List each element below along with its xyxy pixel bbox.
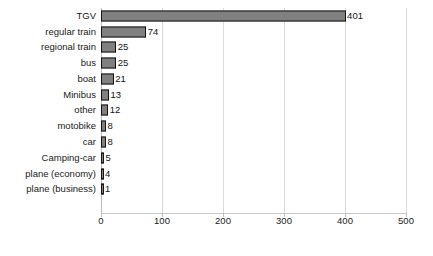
category-label: other	[74, 106, 96, 116]
bar	[101, 42, 116, 53]
bar-value-label: 25	[118, 58, 129, 68]
bar	[101, 168, 104, 179]
x-tick-mark	[345, 213, 346, 217]
bar-value-label: 12	[110, 106, 121, 116]
bar-row: Camping-car5	[0, 150, 433, 166]
bar-row: boat21	[0, 71, 433, 87]
x-tick-label: 100	[154, 216, 170, 226]
bar-value-label: 1	[105, 185, 110, 195]
x-tick-mark	[223, 213, 224, 217]
bar-value-label: 4	[105, 169, 110, 179]
bar-row: bus25	[0, 55, 433, 71]
bar-row: regional train25	[0, 40, 433, 56]
x-axis-tick-labels: 0100200300400500	[0, 216, 433, 234]
bar	[101, 89, 109, 100]
bar-value-label: 401	[347, 11, 363, 21]
category-label: car	[83, 137, 96, 147]
bar	[101, 137, 106, 148]
bar	[101, 73, 114, 84]
category-label: Camping-car	[42, 153, 96, 163]
bar-row: plane (business)1	[0, 181, 433, 197]
bar-value-label: 8	[107, 137, 112, 147]
x-tick-label: 0	[98, 216, 103, 226]
bar-row: car8	[0, 134, 433, 150]
category-label: bus	[81, 58, 96, 68]
bar	[101, 26, 146, 37]
category-label: Minibus	[63, 90, 96, 100]
bar-rows: TGV401regular train74regional train25bus…	[0, 8, 433, 213]
bar	[101, 152, 104, 163]
x-tick-mark	[101, 213, 102, 217]
bar-value-label: 8	[107, 121, 112, 131]
x-tick-mark	[162, 213, 163, 217]
category-label: plane (business)	[26, 185, 96, 195]
x-tick-mark	[284, 213, 285, 217]
x-tick-label: 500	[398, 216, 414, 226]
bar-value-label: 25	[118, 43, 129, 53]
bar-row: motobike8	[0, 118, 433, 134]
bar-row: regular train74	[0, 24, 433, 40]
bar-chart: TGV401regular train74regional train25bus…	[0, 0, 433, 256]
category-label: motobike	[57, 121, 96, 131]
bar-row: other12	[0, 103, 433, 119]
x-tick-label: 300	[276, 216, 292, 226]
bar-row: plane (economy)4	[0, 166, 433, 182]
bar-value-label: 5	[106, 153, 111, 163]
bar	[101, 184, 104, 195]
category-label: TGV	[76, 11, 96, 21]
x-axis-line	[101, 213, 406, 214]
bar-row: Minibus13	[0, 87, 433, 103]
x-tick-label: 400	[337, 216, 353, 226]
bar	[101, 10, 346, 21]
x-tick-label: 200	[215, 216, 231, 226]
bar	[101, 121, 106, 132]
category-label: regional train	[41, 43, 96, 53]
category-label: regular train	[45, 27, 96, 37]
bar-value-label: 21	[115, 74, 126, 84]
bar-row: TGV401	[0, 8, 433, 24]
bar	[101, 105, 108, 116]
bar-value-label: 74	[148, 27, 159, 37]
category-label: plane (economy)	[25, 169, 96, 179]
bar	[101, 58, 116, 69]
category-label: boat	[78, 74, 97, 84]
bar-value-label: 13	[110, 90, 121, 100]
x-tick-mark	[406, 213, 407, 217]
